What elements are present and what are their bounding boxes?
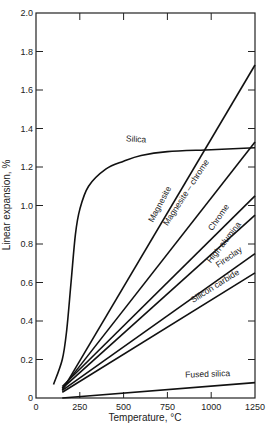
chart-canvas: 02505007501000125000.20.40.60.81.01.21.4…	[0, 0, 270, 425]
y-tick-label: 0.8	[20, 239, 33, 249]
y-tick-label: 1.0	[20, 201, 33, 211]
linear-expansion-chart: 02505007501000125000.20.40.60.81.01.21.4…	[0, 0, 270, 425]
x-tick-label: 1250	[245, 402, 265, 412]
series-line-fused-silica	[62, 383, 255, 398]
y-tick-label: 0.4	[20, 316, 33, 326]
y-tick-label: 0.6	[20, 278, 33, 288]
series-line-silica	[54, 148, 255, 385]
series-label: Silica	[126, 133, 147, 144]
x-tick-label: 500	[116, 402, 131, 412]
y-tick-label: 1.8	[20, 47, 33, 57]
y-tick-label: 1.4	[20, 124, 33, 134]
x-tick-label: 250	[72, 402, 87, 412]
x-axis-label: Temperature, °C	[109, 412, 182, 423]
x-tick-label: 0	[33, 402, 38, 412]
y-tick-label: 0.2	[20, 355, 33, 365]
series-line-magnesite-chrome	[62, 142, 255, 388]
y-tick-label: 2.0	[20, 8, 33, 18]
y-tick-label: 1.6	[20, 85, 33, 95]
y-tick-label: 1.2	[20, 162, 33, 172]
series-label: Fused silica	[185, 368, 230, 380]
y-tick-label: 0	[28, 393, 33, 403]
y-axis-label: Linear expansion, %	[1, 160, 12, 251]
x-tick-label: 1000	[201, 402, 221, 412]
series-line-magnesite	[62, 65, 255, 390]
x-tick-label: 750	[160, 402, 175, 412]
